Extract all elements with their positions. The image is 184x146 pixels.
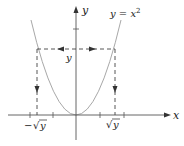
left-arrow-icon [57, 47, 64, 52]
y-axis-arrow-icon [74, 6, 79, 13]
svg-text:−: − [24, 120, 32, 131]
x-axis-arrow-icon [164, 113, 171, 118]
svg-text:y: y [112, 119, 119, 130]
right-arrow-icon [89, 47, 96, 52]
curve-label: y = x2 [109, 7, 141, 19]
level-y-label: y [65, 52, 72, 63]
right-down-arrow-icon [113, 86, 118, 93]
left-down-arrow-icon [35, 86, 40, 93]
svg-text:√: √ [106, 119, 113, 130]
parabola-diagram: y x y = x2 y − √ y √ y [0, 0, 184, 146]
svg-text:y: y [39, 120, 46, 131]
neg-sqrt-y-label: − √ y [24, 120, 47, 131]
y-axis-label: y [81, 4, 89, 17]
svg-text:√: √ [33, 120, 40, 131]
pos-sqrt-y-label: √ y [106, 119, 120, 130]
x-axis-label: x [173, 109, 180, 122]
